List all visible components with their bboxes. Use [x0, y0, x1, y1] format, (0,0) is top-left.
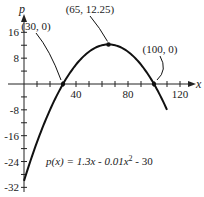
pointer-arrow-icon	[157, 56, 163, 80]
pointer-arrow-icon	[90, 16, 108, 41]
y-tick-label: 16	[8, 26, 20, 38]
equation-label: p(x) = 1.3x - 0.01x2 - 30	[45, 154, 153, 168]
point-label: (100, 0)	[143, 43, 178, 56]
y-tick-label: -16	[4, 130, 19, 142]
y-axis-label: p	[18, 2, 25, 16]
pointer-arrow-icon	[36, 33, 61, 80]
y-tick-label: -24	[4, 156, 19, 168]
x-tick-label: 40	[71, 88, 83, 100]
x-tick-label: 80	[123, 88, 135, 100]
point-annotations: (30, 0)(65, 12.25)(100, 0)	[21, 3, 177, 86]
x-axis-label: x	[195, 77, 202, 91]
equation-suffix: - 30	[133, 155, 154, 167]
y-tick-label: 8	[14, 52, 20, 64]
x-axis-arrow-icon	[188, 81, 196, 87]
point-label: (65, 12.25)	[66, 3, 115, 16]
point-marker	[106, 42, 110, 46]
x-tick-label: 120	[172, 88, 189, 100]
y-tick-label: -8	[10, 104, 20, 116]
y-tick-label: -32	[4, 181, 19, 193]
point-marker	[61, 82, 65, 86]
parabola-chart: 4080120168-8-16-24-32 (30, 0)(65, 12.25)…	[0, 0, 204, 197]
point-marker	[152, 82, 156, 86]
equation-prefix: p(x) = 1.3x - 0.01x	[45, 155, 129, 168]
point-label: (30, 0)	[21, 20, 51, 33]
